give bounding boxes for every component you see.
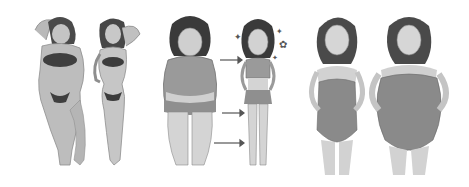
swimsuit-figures-illustration <box>305 0 469 187</box>
svg-text:✦: ✦ <box>234 32 242 42</box>
after-figure <box>241 19 274 165</box>
svg-text:✿: ✿ <box>279 39 287 50</box>
bikini-figures-illustration <box>0 0 155 187</box>
panel-bikini-comparison <box>0 0 155 187</box>
before-figure <box>163 16 216 165</box>
panel-swimsuit-comparison <box>305 0 469 187</box>
heavier-swimsuit-figure <box>372 17 446 175</box>
panel-before-after: ✦ ✦ ✿ ✦ <box>158 0 303 187</box>
slim-figure <box>95 18 140 165</box>
slim-swimsuit-figure <box>311 17 362 175</box>
transformation-arrows <box>214 57 244 146</box>
plus-size-figure <box>35 17 85 165</box>
svg-text:✦: ✦ <box>276 27 283 36</box>
svg-text:✦: ✦ <box>272 54 278 62</box>
before-after-illustration: ✦ ✦ ✿ ✦ <box>158 0 303 187</box>
